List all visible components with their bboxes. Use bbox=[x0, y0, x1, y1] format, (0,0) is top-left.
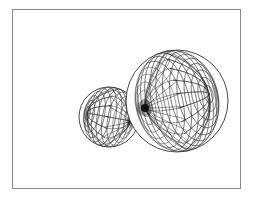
wireframe-spheres-diagram bbox=[0, 0, 256, 199]
large-lobe bbox=[126, 45, 228, 156]
